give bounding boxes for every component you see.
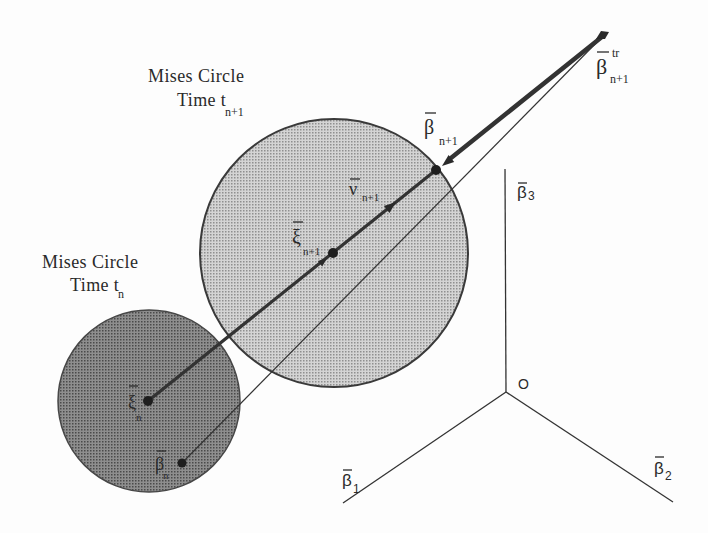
label-nu-next-symbol: ν xyxy=(349,179,357,199)
label-axis-beta1-subscript: 1 xyxy=(353,482,360,496)
label-nu-next-subscript: n+1 xyxy=(362,191,379,203)
label-xi-current-symbol: ξ xyxy=(128,392,136,412)
caption-current-line1: Mises Circle xyxy=(42,252,138,272)
label-beta-next: β n+1 xyxy=(424,113,458,148)
label-beta-trial-subscript: n+1 xyxy=(610,72,629,86)
point-xi-n-plus-1 xyxy=(328,248,338,258)
label-axis-beta2: β 2 xyxy=(654,457,672,483)
label-beta-trial-superscript: tr xyxy=(612,46,619,60)
caption-mises-circle-next: Mises Circle Time t n+1 xyxy=(148,66,244,119)
label-beta-next-subscript: n+1 xyxy=(439,134,458,148)
axis-beta2-line xyxy=(506,392,673,502)
point-xi-n xyxy=(143,396,153,406)
axis-beta1-line xyxy=(343,392,506,503)
label-xi-next-subscript: n+1 xyxy=(303,245,320,257)
caption-mises-circle-current: Mises Circle Time t n xyxy=(42,252,138,301)
origin-label: O xyxy=(518,376,529,392)
caption-current-line2-subscript: n xyxy=(118,287,124,301)
trial-state-tail-icon xyxy=(596,31,609,39)
label-axis-beta2-symbol: β xyxy=(654,459,664,478)
return-mapping-arrow-shaft xyxy=(451,36,603,158)
label-beta-current-subscript: n xyxy=(163,469,169,481)
label-axis-beta3-symbol: β xyxy=(517,183,527,202)
point-beta-n-plus-1 xyxy=(431,165,441,175)
label-xi-next-symbol: ξ xyxy=(292,226,301,248)
caption-next-line2-subscript: n+1 xyxy=(225,105,244,119)
label-beta-next-symbol: β xyxy=(424,116,434,139)
label-beta-trial-symbol: β xyxy=(596,54,607,79)
caption-next-line2: Time t xyxy=(177,90,226,110)
label-beta-trial: β tr n+1 xyxy=(596,46,629,86)
label-axis-beta3-subscript: 3 xyxy=(528,189,535,203)
label-axis-beta1: β 1 xyxy=(342,470,360,496)
point-beta-n xyxy=(178,459,187,468)
label-axis-beta3: β 3 xyxy=(517,183,535,203)
label-axis-beta2-subscript: 2 xyxy=(665,469,672,483)
caption-next-line1: Mises Circle xyxy=(148,66,244,86)
mises-circle-return-mapping-diagram: Mises Circle Time t n+1 Mises Circle Tim… xyxy=(0,0,708,533)
label-axis-beta1-symbol: β xyxy=(342,471,352,490)
label-xi-current-subscript: n xyxy=(136,411,142,423)
axis-beta3-line xyxy=(505,169,506,392)
caption-current-line2: Time t xyxy=(70,275,119,295)
